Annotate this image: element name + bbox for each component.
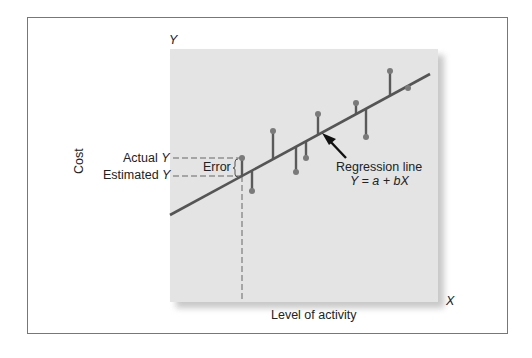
data-point [387, 68, 393, 74]
data-point [353, 100, 359, 106]
error-label: Error [203, 160, 231, 174]
data-point [363, 134, 369, 140]
regression-equation: Y = a + bX [350, 174, 409, 188]
y-axis-letter: Y [169, 33, 177, 47]
data-point [239, 155, 245, 161]
actual-y-label: Actual Y [123, 151, 170, 165]
x-axis-title: Level of activity [271, 308, 356, 322]
regression-line-label: Regression line [336, 160, 422, 174]
data-point [270, 128, 276, 134]
data-point [315, 111, 321, 117]
data-point [303, 155, 309, 161]
data-point [293, 169, 299, 175]
data-point [405, 85, 411, 91]
x-axis-letter: X [446, 294, 454, 308]
data-point [249, 188, 255, 194]
y-axis-title: Cost [72, 148, 86, 174]
estimated-y-label: Estimated Y [103, 168, 170, 182]
